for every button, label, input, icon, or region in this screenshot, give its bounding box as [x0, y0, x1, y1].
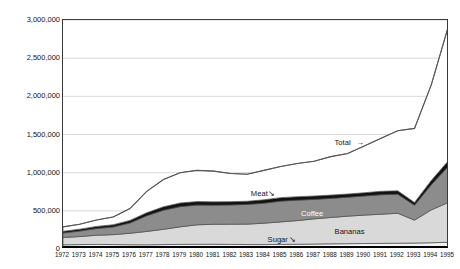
- x-tick-1989: 1989: [340, 251, 354, 258]
- y-tick-6: 3,000,000: [27, 15, 60, 24]
- x-tick-1985: 1985: [273, 251, 287, 258]
- x-tick-1988: 1988: [323, 251, 337, 258]
- annotation-bananas: Bananas: [335, 227, 365, 236]
- x-tick-1995: 1995: [440, 251, 454, 258]
- x-tick-1976: 1976: [122, 251, 136, 258]
- annotation-coffee: Coffee: [301, 209, 323, 218]
- y-tick-4: 2,000,000: [27, 91, 60, 100]
- x-tick-1980: 1980: [189, 251, 203, 258]
- x-tick-1979: 1979: [172, 251, 186, 258]
- x-tick-1983: 1983: [239, 251, 253, 258]
- y-tick-1: 500,000: [33, 205, 60, 214]
- x-tick-1972: 1972: [55, 251, 69, 258]
- y-tick-2: 1,000,000: [27, 167, 60, 176]
- x-tick-1987: 1987: [306, 251, 320, 258]
- x-tick-1991: 1991: [373, 251, 387, 258]
- annotation-sugar: Sugar: [268, 235, 288, 244]
- y-tick-3: 1,500,000: [27, 129, 60, 138]
- annotation-arrow-meat: ↘: [268, 189, 275, 198]
- plot-area: [62, 19, 448, 248]
- x-axis-tick-labels: 1972197319741975197619771978197919801981…: [62, 251, 448, 267]
- x-tick-1993: 1993: [407, 251, 421, 258]
- x-tick-1975: 1975: [105, 251, 119, 258]
- annotation-total: Total: [335, 138, 351, 147]
- x-tick-1994: 1994: [423, 251, 437, 258]
- stacked-area-svg: [63, 20, 448, 248]
- chart-container: In constant US $1000 0500,0001,000,0001,…: [0, 0, 460, 269]
- x-tick-1984: 1984: [256, 251, 270, 258]
- x-tick-1992: 1992: [390, 251, 404, 258]
- x-tick-1982: 1982: [222, 251, 236, 258]
- x-tick-1973: 1973: [72, 251, 86, 258]
- x-tick-1986: 1986: [289, 251, 303, 258]
- x-tick-1981: 1981: [206, 251, 220, 258]
- annotation-arrow-total: →: [356, 138, 364, 147]
- annotation-arrow-sugar: ↘: [289, 235, 296, 244]
- x-tick-1974: 1974: [88, 251, 102, 258]
- y-axis-tick-labels: 0500,0001,000,0001,500,0002,000,0002,500…: [12, 0, 60, 269]
- x-tick-1977: 1977: [139, 251, 153, 258]
- y-tick-5: 2,500,000: [27, 53, 60, 62]
- annotation-meat: Meat: [251, 189, 268, 198]
- x-tick-1990: 1990: [356, 251, 370, 258]
- x-tick-1978: 1978: [155, 251, 169, 258]
